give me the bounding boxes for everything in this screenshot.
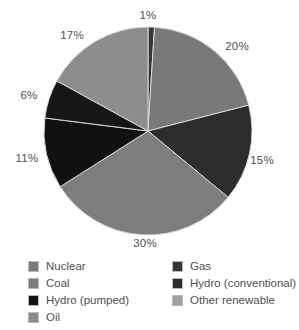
legend-item-label: Nuclear (46, 261, 86, 272)
legend-item[interactable]: Coal (28, 275, 129, 292)
legend-item-label: Gas (190, 261, 211, 272)
legend-swatch-icon (28, 261, 39, 272)
legend-item-label: Hydro (conventional) (190, 278, 296, 289)
legend-item-label: Oil (46, 312, 60, 323)
pie-svg (0, 0, 299, 258)
legend-item[interactable]: Gas (172, 258, 296, 275)
pie-percentage-label: 15% (250, 154, 274, 166)
legend-item[interactable]: Hydro (pumped) (28, 292, 129, 309)
legend-item-label: Other renewable (190, 295, 275, 306)
legend-column-right: GasHydro (conventional)Other renewable (172, 258, 296, 309)
legend-item-label: Coal (46, 278, 70, 289)
pie-plot-area: 1%20%15%30%11%6%17% (0, 0, 299, 258)
chart-legend: NuclearCoalHydro (pumped)Oil GasHydro (c… (0, 258, 299, 330)
legend-swatch-icon (172, 278, 183, 289)
legend-swatch-icon (28, 278, 39, 289)
pie-chart-figure: 1%20%15%30%11%6%17% NuclearCoalHydro (pu… (0, 0, 299, 330)
pie-percentage-label: 17% (60, 29, 84, 41)
legend-swatch-icon (172, 261, 183, 272)
pie-slice-group (44, 27, 252, 235)
legend-swatch-icon (172, 295, 183, 306)
legend-column-left: NuclearCoalHydro (pumped)Oil (28, 258, 129, 326)
legend-item[interactable]: Nuclear (28, 258, 129, 275)
legend-item-label: Hydro (pumped) (46, 295, 129, 306)
pie-percentage-label: 30% (133, 237, 157, 249)
legend-swatch-icon (28, 295, 39, 306)
pie-percentage-label: 1% (139, 9, 156, 21)
legend-item[interactable]: Hydro (conventional) (172, 275, 296, 292)
pie-percentage-label: 6% (20, 89, 37, 101)
legend-item[interactable]: Oil (28, 309, 129, 326)
pie-percentage-label: 20% (225, 40, 249, 52)
legend-swatch-icon (28, 312, 39, 323)
pie-percentage-label: 11% (16, 152, 39, 164)
legend-item[interactable]: Other renewable (172, 292, 296, 309)
